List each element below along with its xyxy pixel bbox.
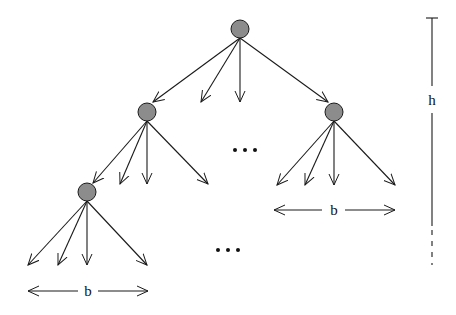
ellipsis-bottom bbox=[216, 248, 240, 252]
edge-r1-child bbox=[277, 121, 334, 185]
nodes bbox=[78, 20, 343, 201]
edge-r1-child bbox=[305, 121, 334, 185]
node-l1-right bbox=[325, 103, 343, 121]
tree-diagram: b b h bbox=[0, 0, 456, 315]
edge-root-right bbox=[240, 38, 328, 102]
edge-r1-child bbox=[334, 121, 395, 185]
branching-label-bottom: b bbox=[84, 283, 92, 299]
height-label: h bbox=[428, 92, 436, 108]
node-l1-left bbox=[138, 103, 156, 121]
edges bbox=[28, 38, 395, 265]
edge-root-child bbox=[201, 38, 240, 102]
branching-label-top: b bbox=[330, 202, 338, 218]
height-bar bbox=[426, 18, 438, 265]
edge-root-left bbox=[153, 38, 240, 102]
node-l2-left bbox=[78, 183, 96, 201]
edge-l2-child bbox=[28, 201, 87, 265]
ellipsis-middle bbox=[233, 148, 257, 152]
edge-l2-child bbox=[87, 201, 147, 265]
edge-l2-child bbox=[58, 201, 87, 265]
edge-l1-child bbox=[93, 121, 147, 183]
edge-l1-child bbox=[147, 121, 208, 184]
root-node bbox=[231, 20, 249, 38]
edge-l1-child bbox=[120, 121, 147, 184]
